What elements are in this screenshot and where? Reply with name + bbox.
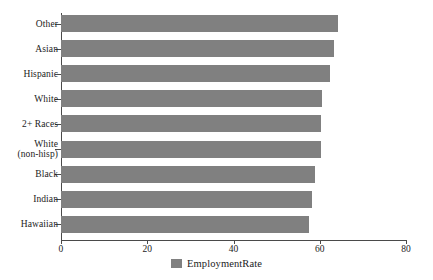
bar-other	[61, 15, 338, 32]
plot-area: OtherAsianHispanicWhite2+ RacesWhite (no…	[0, 0, 433, 280]
chart-figure: OtherAsianHispanicWhite2+ RacesWhite (no…	[0, 0, 433, 280]
bar-2-races	[61, 115, 321, 132]
y-axis-label-black: Black	[35, 169, 58, 179]
x-axis-label-80: 80	[391, 244, 421, 254]
bar-asian	[61, 40, 334, 57]
bar-white-non-hisp	[61, 141, 321, 158]
y-axis-label-other: Other	[36, 19, 58, 29]
y-axis-label-indian: Indian	[33, 194, 58, 204]
y-axis-label-white: White (non-hisp)	[17, 139, 58, 159]
x-axis-label-60: 60	[305, 244, 335, 254]
legend-label-employmentrate: EmploymentRate	[187, 258, 262, 269]
bar-hispanic	[61, 65, 330, 82]
y-axis-label-hispanic: Hispanic	[23, 69, 58, 79]
x-axis-label-0: 0	[46, 244, 76, 254]
chart-legend: EmploymentRate	[0, 258, 433, 269]
y-axis-label-2-races: 2+ Races	[22, 119, 58, 129]
bar-white	[61, 90, 322, 107]
legend-swatch-employmentrate	[171, 259, 182, 268]
y-axis-label-asian: Asian	[35, 44, 58, 54]
x-axis-label-40: 40	[219, 244, 249, 254]
bar-indian	[61, 191, 312, 208]
bar-black	[61, 166, 315, 183]
bar-hawaiian	[61, 216, 309, 233]
y-axis-label-hawaiian: Hawaiian	[21, 219, 58, 229]
x-axis-label-20: 20	[132, 244, 162, 254]
y-axis-label-white: White	[34, 94, 58, 104]
